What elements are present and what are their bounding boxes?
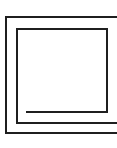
middle-stroke (17, 29, 117, 123)
square-spiral-icon (0, 0, 117, 148)
outer-stroke (6, 17, 117, 133)
